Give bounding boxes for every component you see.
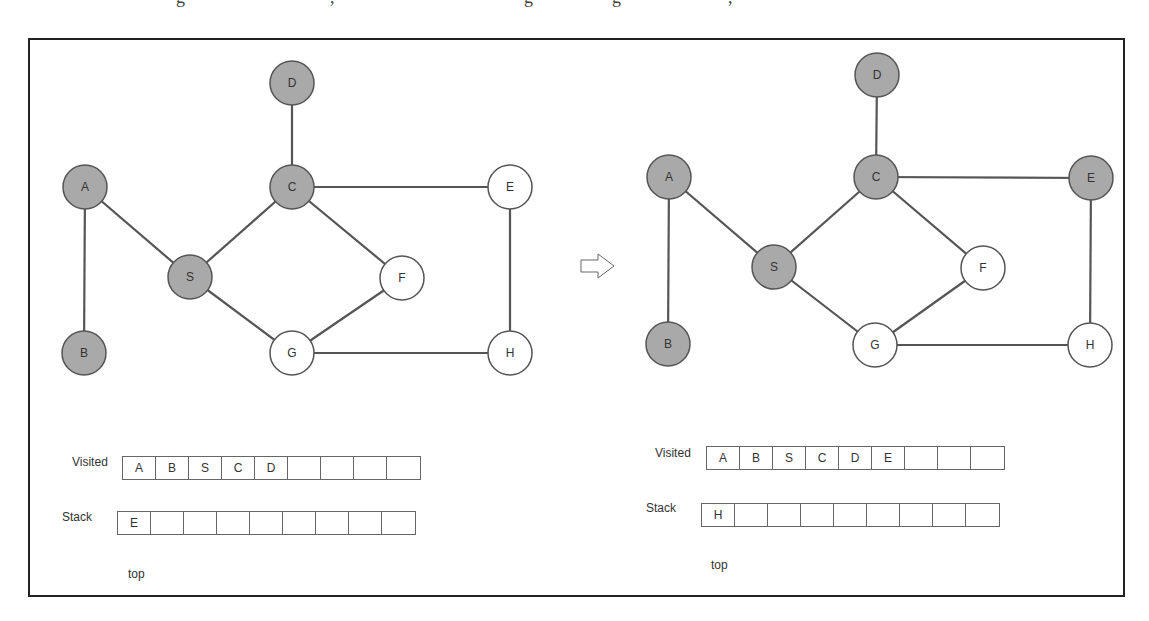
graph-before: ABSCDEFGH [62, 61, 532, 375]
graph-after: ABSCDEFGH [646, 53, 1113, 367]
stack-cell [151, 512, 184, 534]
node-H: H [488, 331, 532, 375]
node-label: D [288, 76, 297, 90]
stack-cell: E [118, 512, 151, 534]
node-D: D [270, 61, 314, 105]
node-label: G [287, 346, 296, 360]
node-F: F [961, 246, 1005, 290]
visited-cell: A [707, 447, 740, 469]
visited-cell: S [189, 457, 222, 479]
stack-cell [349, 512, 382, 534]
visited-cell [905, 447, 938, 469]
stack-cell [316, 512, 349, 534]
stack-cell: H [702, 504, 735, 526]
stack-label-before: Stack [62, 510, 92, 524]
edge-A-B [84, 187, 85, 353]
visited-cell: C [222, 457, 255, 479]
node-B: B [62, 331, 106, 375]
edge-A-B [668, 177, 669, 344]
stack-array-after: H [701, 503, 1000, 527]
edge-C-E [876, 177, 1091, 178]
node-C: C [270, 165, 314, 209]
stack-cell [933, 504, 966, 526]
visited-cell: B [740, 447, 773, 469]
node-label: E [506, 180, 514, 194]
node-A: A [63, 165, 107, 209]
visited-cell [971, 447, 1004, 469]
visited-cell [288, 457, 321, 479]
node-B: B [646, 322, 690, 366]
node-C: C [854, 155, 898, 199]
node-label: S [770, 260, 778, 274]
stack-cell [382, 512, 415, 534]
node-G: G [853, 323, 897, 367]
node-S: S [752, 245, 796, 289]
node-G: G [270, 331, 314, 375]
stack-array-before: E [117, 511, 416, 535]
stack-cell [966, 504, 999, 526]
visited-cell [387, 457, 420, 479]
stack-cell [250, 512, 283, 534]
node-E: E [1069, 156, 1113, 200]
stack-cell [801, 504, 834, 526]
visited-label-after: Visited [655, 446, 691, 460]
node-label: G [870, 338, 879, 352]
visited-cell [938, 447, 971, 469]
stack-cell [900, 504, 933, 526]
node-H: H [1068, 323, 1112, 367]
visited-cell [321, 457, 354, 479]
visited-cell: S [773, 447, 806, 469]
node-label: A [665, 170, 673, 184]
node-A: A [647, 155, 691, 199]
top-pointer-label-before: top [128, 567, 145, 581]
node-D: D [855, 53, 899, 97]
visited-cell: E [872, 447, 905, 469]
visited-array-before: ABSCD [122, 456, 421, 480]
node-label: E [1087, 171, 1095, 185]
node-label: B [664, 337, 672, 351]
transition-arrow-icon [581, 254, 614, 278]
node-label: H [506, 346, 515, 360]
node-label: H [1086, 338, 1095, 352]
node-label: F [398, 271, 405, 285]
visited-cell: C [806, 447, 839, 469]
edge-E-H [1090, 178, 1091, 345]
node-label: D [873, 68, 882, 82]
node-label: C [872, 170, 881, 184]
node-label: S [186, 270, 194, 284]
stack-cell [768, 504, 801, 526]
stack-cell [834, 504, 867, 526]
node-E: E [488, 165, 532, 209]
visited-cell: A [123, 457, 156, 479]
node-label: C [288, 180, 297, 194]
stack-cell [217, 512, 250, 534]
visited-cell: D [839, 447, 872, 469]
visited-cell: B [156, 457, 189, 479]
node-label: A [81, 180, 89, 194]
visited-label-before: Visited [72, 455, 108, 469]
visited-array-after: ABSCDE [706, 446, 1005, 470]
visited-cell [354, 457, 387, 479]
top-pointer-label-after: top [711, 558, 728, 572]
node-label: F [979, 261, 986, 275]
stack-label-after: Stack [646, 501, 676, 515]
visited-cell: D [255, 457, 288, 479]
stack-cell [735, 504, 768, 526]
node-S: S [168, 255, 212, 299]
stack-cell [184, 512, 217, 534]
stack-cell [283, 512, 316, 534]
node-F: F [380, 256, 424, 300]
stack-cell [867, 504, 900, 526]
node-label: B [80, 346, 88, 360]
